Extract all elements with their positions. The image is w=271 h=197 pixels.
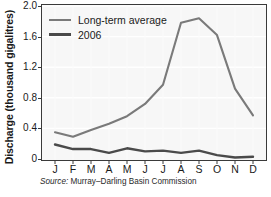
x-tick-label: M xyxy=(83,163,99,176)
y-axis-tick-labels: 00.40.81.21.62.0 xyxy=(15,0,37,197)
plot-area: Long-term average 2006 xyxy=(41,4,267,161)
legend-label-2006: 2006 xyxy=(78,29,101,41)
x-tick-label: O xyxy=(209,163,225,176)
x-tick-label: D xyxy=(245,163,261,176)
chart-figure: Discharge (thousand gigalitres) 00.40.81… xyxy=(0,0,271,197)
x-tick-label: J xyxy=(137,163,153,176)
y-tick-label: 1.2 xyxy=(15,62,37,72)
legend-item-2006: 2006 xyxy=(49,27,179,42)
x-tick-label: A xyxy=(173,163,189,176)
x-tick-label: A xyxy=(101,163,117,176)
x-tick-label: J xyxy=(47,163,63,176)
y-tick-label: 1.6 xyxy=(15,32,37,42)
y-tick-label: 0 xyxy=(15,154,37,164)
legend-label-long-term-average: Long-term average xyxy=(78,14,167,26)
legend-item-long-term-average: Long-term average xyxy=(49,12,179,27)
x-tick-label: N xyxy=(227,163,243,176)
y-tick-label: 2.0 xyxy=(15,1,37,11)
legend-line-swatch-long-term-average xyxy=(49,19,71,21)
y-tick-label: 0.8 xyxy=(15,93,37,103)
x-tick-label: J xyxy=(155,163,171,176)
x-axis-tick-labels: JFMAMJJASOND xyxy=(41,163,267,176)
x-tick-label: M xyxy=(119,163,135,176)
source-prefix: Source: xyxy=(40,177,68,186)
source-attribution: Source: Murray–Darling Basin Commission xyxy=(40,177,197,186)
source-body: Murray–Darling Basin Commission xyxy=(68,177,196,186)
x-tick-label: S xyxy=(191,163,207,176)
chart-legend: Long-term average 2006 xyxy=(49,12,179,42)
y-tick-label: 0.4 xyxy=(15,123,37,133)
y-axis-title: Discharge (thousand gigalitres) xyxy=(2,2,16,172)
x-tick-label: F xyxy=(65,163,81,176)
legend-line-swatch-2006 xyxy=(49,33,71,36)
